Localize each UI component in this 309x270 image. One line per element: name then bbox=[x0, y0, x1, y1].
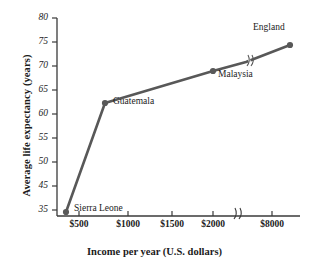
x-tick-label-8000: $8000 bbox=[244, 219, 300, 229]
data-point-malaysia[interactable] bbox=[210, 68, 216, 74]
annotation-guatemala: Guatemala bbox=[113, 96, 154, 106]
data-point-england[interactable] bbox=[287, 42, 293, 48]
life-expectancy-income-chart: 80 75 70 65 60 55 50 45 35 $500 $1000 $1… bbox=[0, 0, 309, 270]
x-tick-label-500: $500 bbox=[54, 219, 104, 229]
y-tick-marks bbox=[52, 18, 57, 210]
x-tick-label-2000: $2000 bbox=[185, 219, 241, 229]
x-axis-title: Income per year (U.S. dollars) bbox=[0, 246, 309, 257]
annotation-malaysia: Malaysia bbox=[218, 69, 253, 79]
data-point-guatemala[interactable] bbox=[102, 100, 108, 106]
y-axis-title: Average life expectancy (years) bbox=[21, 36, 32, 216]
annotation-england: England bbox=[253, 22, 285, 32]
y-tick-label-80: 80 bbox=[22, 12, 48, 22]
data-point-sierra-leone[interactable] bbox=[63, 209, 69, 215]
annotation-sierra-leone: Sierra Leone bbox=[74, 203, 123, 213]
x-axis-break-icon bbox=[234, 208, 241, 219]
data-point-markers bbox=[63, 42, 293, 215]
data-line bbox=[66, 45, 290, 212]
